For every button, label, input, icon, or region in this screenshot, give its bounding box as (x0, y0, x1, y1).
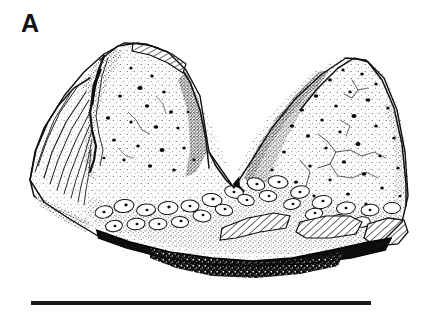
specimen-illustration (0, 0, 434, 316)
scale-bar (31, 301, 371, 305)
figure-panel: A (0, 0, 434, 316)
specimen-body (28, 40, 412, 278)
